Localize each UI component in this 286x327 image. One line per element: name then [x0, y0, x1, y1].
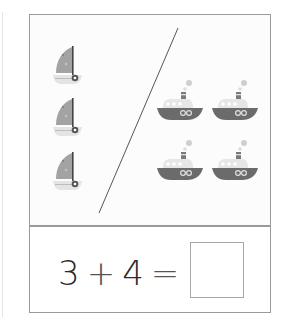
diagonal-divider-line — [99, 28, 178, 213]
sailboat-icon — [53, 46, 82, 84]
steamboat-icon — [157, 80, 203, 120]
sailboat-icon — [53, 98, 82, 136]
illustration-layer — [0, 0, 286, 327]
steamboat-icon — [212, 140, 258, 180]
steamboat-icon — [212, 80, 258, 120]
steamboat-icon — [157, 140, 203, 180]
sailboat-icon — [53, 152, 82, 190]
